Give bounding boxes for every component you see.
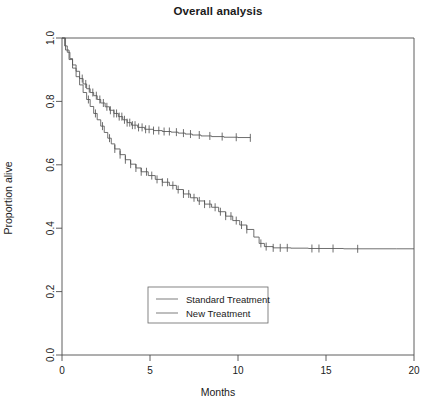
- legend-box[interactable]: Standard TreatmentNew Treatment: [148, 287, 270, 323]
- chart-canvas: 051015200.00.20.40.60.81.0 Standard Trea…: [0, 0, 436, 408]
- legend-label-new[interactable]: New Treatment: [186, 308, 251, 319]
- legend-label-standard[interactable]: Standard Treatment: [186, 294, 270, 305]
- y-tick-label: 0.8: [45, 94, 56, 108]
- axes-layer: 051015200.00.20.40.60.81.0: [45, 31, 420, 376]
- y-tick-label: 0.2: [45, 284, 56, 298]
- y-tick-label: 1.0: [45, 31, 56, 45]
- x-tick-label: 0: [59, 365, 65, 376]
- series-layer: [62, 38, 414, 253]
- x-tick-label: 15: [320, 365, 332, 376]
- survival-plot: Overall analysis Proportion alive Months…: [0, 0, 436, 408]
- x-tick-label: 20: [408, 365, 420, 376]
- y-tick-label: 0.6: [45, 157, 56, 171]
- y-tick-label: 0.4: [45, 221, 56, 235]
- survival-curve-new: [62, 38, 414, 249]
- x-tick-label: 10: [232, 365, 244, 376]
- y-tick-label: 0.0: [45, 348, 56, 362]
- x-tick-label: 5: [147, 365, 153, 376]
- survival-curve-standard: [62, 38, 250, 138]
